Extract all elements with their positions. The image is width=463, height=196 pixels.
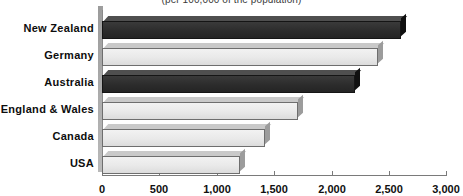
category-label-canada: Canada [0, 130, 94, 142]
x-tick-1500 [274, 171, 275, 176]
category-label-australia: Australia [0, 76, 94, 88]
plot-area: 0 500 1,000 1,500 2,000 2,500 3,000 [102, 10, 447, 176]
x-tick-2000 [332, 171, 333, 176]
x-tick-3000 [446, 171, 447, 176]
bar-side-usa [240, 149, 245, 172]
bar-new-zealand[interactable] [102, 21, 401, 39]
bar-side-australia [355, 68, 360, 91]
x-tick-2500 [389, 171, 390, 176]
x-tick-label-500: 500 [150, 183, 168, 195]
bar-side-germany [378, 41, 383, 64]
bar-australia[interactable] [102, 75, 355, 93]
bar-chart: (per 100,000 of the population) New Zeal… [0, 0, 463, 196]
bar-canada[interactable] [102, 129, 265, 147]
category-label-new-zealand: New Zealand [0, 22, 94, 34]
bar-side-new-zealand [401, 14, 406, 37]
bar-side-england-and-wales [298, 95, 303, 118]
x-tick-label-2500: 2,500 [375, 183, 403, 195]
bar-england-and-wales[interactable] [102, 102, 298, 120]
x-tick-label-2000: 2,000 [318, 183, 346, 195]
bar-face-australia [102, 75, 355, 93]
bar-face-new-zealand [102, 21, 401, 39]
category-label-england-and-wales: England & Wales [0, 103, 94, 115]
bar-face-usa [102, 156, 240, 174]
bar-germany[interactable] [102, 48, 378, 66]
category-label-usa: USA [0, 157, 94, 169]
bar-side-canada [265, 122, 270, 145]
x-tick-label-0: 0 [99, 183, 105, 195]
bar-face-canada [102, 129, 265, 147]
x-tick-label-1500: 1,500 [260, 183, 288, 195]
bar-usa[interactable] [102, 156, 240, 174]
bar-face-germany [102, 48, 378, 66]
chart-subtitle: (per 100,000 of the population) [0, 0, 463, 5]
x-tick-label-3000: 3,000 [432, 183, 460, 195]
category-label-germany: Germany [0, 49, 94, 61]
x-tick-label-1000: 1,000 [203, 183, 231, 195]
bar-face-england-and-wales [102, 102, 298, 120]
